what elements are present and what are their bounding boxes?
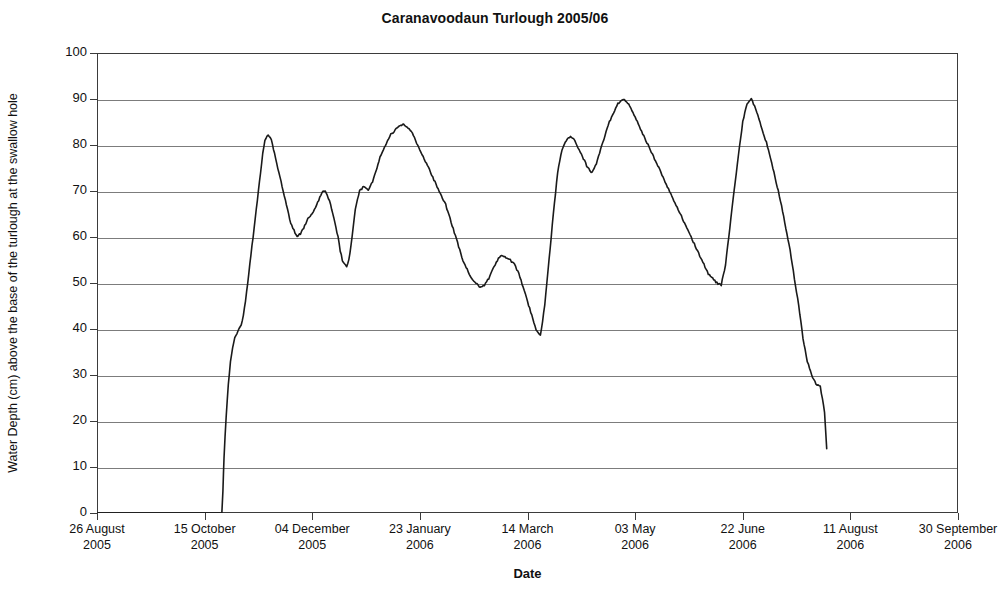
- gridline-horizontal: [98, 238, 957, 239]
- y-axis-tick-mark: [90, 467, 97, 468]
- gridline-horizontal: [98, 376, 957, 377]
- y-axis-tick-label: 90: [47, 90, 87, 105]
- gridline-horizontal: [98, 468, 957, 469]
- x-axis-tick-mark: [205, 513, 206, 520]
- y-axis-tick-mark: [90, 191, 97, 192]
- gridline-horizontal: [98, 146, 957, 147]
- gridline-horizontal: [98, 100, 957, 101]
- x-axis-tick-mark: [958, 513, 959, 520]
- y-axis-tick-label: 70: [47, 182, 87, 197]
- x-axis-tick-mark: [850, 513, 851, 520]
- y-axis-tick-mark: [90, 283, 97, 284]
- x-axis-tick-date: 30 September: [888, 521, 1002, 537]
- x-axis-tick-mark: [312, 513, 313, 520]
- x-axis-tick-mark: [635, 513, 636, 520]
- gridline-horizontal: [98, 330, 957, 331]
- y-axis-tick-mark: [90, 329, 97, 330]
- y-axis-tick-label: 10: [47, 458, 87, 473]
- y-axis-tick-label: 0: [47, 504, 87, 519]
- gridline-horizontal: [98, 422, 957, 423]
- x-axis-tick-mark: [743, 513, 744, 520]
- y-axis-tick-label: 50: [47, 274, 87, 289]
- y-axis-tick-label: 20: [47, 412, 87, 427]
- y-axis-tick-mark: [90, 145, 97, 146]
- y-axis-tick-mark: [90, 237, 97, 238]
- y-axis-tick-label: 100: [47, 44, 87, 59]
- y-axis-tick-mark: [90, 53, 97, 54]
- y-axis-label: Water Depth (cm) above the base of the t…: [0, 53, 26, 513]
- x-axis-tick-mark: [97, 513, 98, 520]
- gridline-horizontal: [98, 192, 957, 193]
- x-axis-tick-year: 2006: [888, 537, 1002, 553]
- y-axis-tick-mark: [90, 375, 97, 376]
- y-axis-tick-mark: [90, 421, 97, 422]
- x-axis-tick-mark: [528, 513, 529, 520]
- y-axis-tick-mark: [90, 513, 97, 514]
- y-axis-tick-label: 30: [47, 366, 87, 381]
- y-axis-tick-label: 60: [47, 228, 87, 243]
- y-axis-tick-label: 80: [47, 136, 87, 151]
- y-axis-label-container: Water Depth (cm) above the base of the t…: [0, 53, 26, 513]
- plot-area: [97, 53, 958, 513]
- y-axis-tick-label: 40: [47, 320, 87, 335]
- x-axis-tick-mark: [420, 513, 421, 520]
- x-axis-tick-label: 30 September2006: [888, 521, 1002, 553]
- gridline-horizontal: [98, 284, 957, 285]
- y-axis-tick-mark: [90, 99, 97, 100]
- chart-title: Caranavoodaun Turlough 2005/06: [0, 10, 990, 26]
- x-axis-label: Date: [97, 566, 958, 581]
